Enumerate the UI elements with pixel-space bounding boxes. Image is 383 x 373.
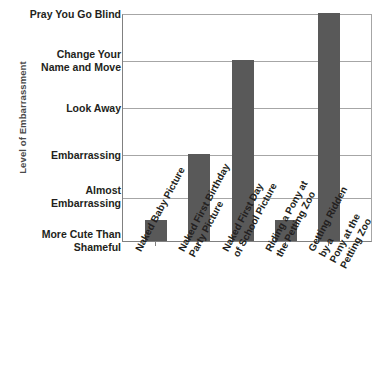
y-tick-label-look-away: Look Away <box>18 102 121 115</box>
y-tick-label-pray-you-go-blind: Pray You Go Blind <box>18 8 121 21</box>
bar-chart: Level of Embarrassment Pray You Go Blind… <box>0 0 383 373</box>
y-tick-label-more-cute-line1: More Cute Than <box>18 228 121 241</box>
y-tick-label-change-your-name-line2: Name and Move <box>18 61 121 74</box>
y-tick-label-almost-embarrassing-line1: Almost <box>18 184 121 197</box>
x-axis-tick-labels: Naked Baby Picture Naked First Birthday … <box>0 246 383 373</box>
y-tick-label-change-your-name-line1: Change Your <box>18 48 121 61</box>
y-tick-label-almost-embarrassing-line2: Embarrassing <box>18 197 121 210</box>
y-tick-label-embarrassing: Embarrassing <box>18 149 121 162</box>
